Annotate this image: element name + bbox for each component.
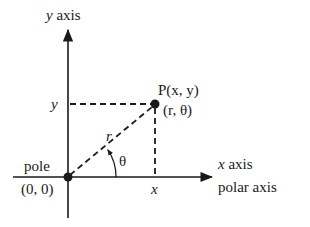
point-polar-label: (r, θ) [163,102,192,119]
radius-label: r [106,128,112,144]
y-tick-label: y [49,96,58,112]
angle-label: θ [119,153,126,169]
point-p [151,100,160,109]
angle-arc [108,150,116,177]
pole-point [64,173,73,182]
polar-axis-label: polar axis [218,179,277,195]
origin-label: (0, 0) [21,181,54,198]
y-axis-label: y axis [44,7,81,23]
polar-coordinates-diagram: y axis y P(x, y) (r, θ) r θ pole (0, 0) … [0,0,310,227]
point-rect-label: P(x, y) [158,82,199,99]
x-axis-label: x axis [217,156,253,172]
x-tick-label: x [150,181,158,197]
pole-label: pole [24,158,50,174]
